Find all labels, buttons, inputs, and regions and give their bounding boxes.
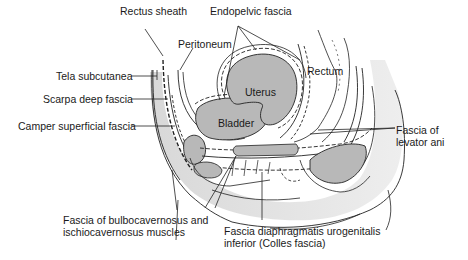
label-line: ischiocavernosus muscles	[63, 226, 208, 238]
pubic-bone	[184, 135, 206, 164]
label-scarpa-fascia: Scarpa deep fascia	[43, 93, 133, 105]
label-endopelvic-fascia: Endopelvic fascia	[210, 5, 292, 17]
bulbocavernosus	[194, 162, 222, 178]
label-peritoneum: Peritoneum	[178, 38, 232, 50]
label-line: Fascia of	[396, 124, 444, 136]
label-line: levator ani	[396, 136, 444, 148]
label-colles-fascia: Fascia diaphragmatis urogenitalis inferi…	[224, 225, 380, 249]
ischioanal-fat	[310, 144, 366, 183]
label-line: inferior (Colles fascia)	[224, 237, 380, 249]
organ-label-rectum: Rectum	[307, 65, 343, 77]
label-camper-fascia: Camper superficial fascia	[18, 120, 136, 132]
organ-label-uterus: Uterus	[245, 86, 276, 98]
organ-label-bladder: Bladder	[218, 117, 254, 129]
label-line: Fascia diaphragmatis urogenitalis	[224, 225, 380, 237]
label-levator-ani-fascia: Fascia of levator ani	[396, 124, 444, 148]
label-rectus-sheath: Rectus sheath	[120, 5, 187, 17]
pelvic-fascia-diagram: Rectus sheath Endopelvic fascia Peritone…	[0, 0, 468, 260]
label-tela-subcutanea: Tela subcutanea	[56, 70, 132, 82]
label-bulbocavernosus-fascia: Fascia of bulbocavernosus and ischiocave…	[63, 214, 208, 238]
label-line: Fascia of bulbocavernosus and	[63, 214, 208, 226]
levator-muscle	[233, 144, 298, 156]
